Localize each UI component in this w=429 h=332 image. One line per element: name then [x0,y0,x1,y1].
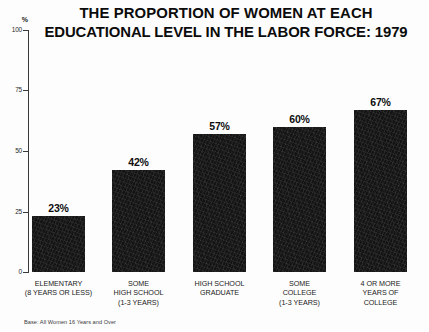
category-label-elementary: ELEMENTARY (8 YEARS OR LESS) [16,279,101,298]
plot-area: % 100 75 50 25 0 23% 42% 57% 60% 67% ELE… [0,0,429,332]
y-axis-label-75: 75 [2,86,22,93]
bar-elementary[interactable] [32,216,85,272]
category-label-4-or-more-college-line-3: COLLEGE [340,298,421,307]
bar-high-school-graduate[interactable] [193,134,246,272]
bar-value-elementary: 23% [32,203,85,214]
category-label-some-high-school-line-3: (1-3 YEARS) [98,298,179,307]
category-label-elementary-line-2: (8 YEARS OR LESS) [16,288,101,297]
category-label-high-school-graduate-line-2: GRADUATE [179,288,260,297]
category-label-4-or-more-college: 4 OR MORE YEARS OF COLLEGE [340,279,421,307]
category-label-some-college: SOME COLLEGE (1-3 YEARS) [259,279,340,307]
bar-4-or-more-college[interactable] [354,110,407,272]
bar-value-high-school-graduate: 57% [193,121,246,132]
category-label-some-college-line-2: COLLEGE [259,288,340,297]
category-label-some-college-line-1: SOME [259,279,340,288]
category-label-some-college-line-3: (1-3 YEARS) [259,298,340,307]
y-axis-tick-50 [23,151,29,152]
y-axis-label-100: 100 [2,26,22,33]
y-axis-label-25: 25 [2,208,22,215]
y-axis-label-50: 50 [2,147,22,154]
bar-value-some-high-school: 42% [112,157,165,168]
y-axis-tick-0 [23,272,29,273]
category-label-elementary-line-1: ELEMENTARY [16,279,101,288]
category-label-some-high-school-line-2: HIGH SCHOOL [98,288,179,297]
bar-some-high-school[interactable] [112,170,165,272]
bar-some-college[interactable] [273,127,326,272]
chart-page: THE PROPORTION OF WOMEN AT EACH EDUCATIO… [0,0,429,332]
y-axis-unit-label: % [14,16,28,23]
category-label-4-or-more-college-line-1: 4 OR MORE [340,279,421,288]
bar-value-4-or-more-college: 67% [354,97,407,108]
chart-footnote: Base: All Women 16 Years and Over [24,319,116,326]
category-label-some-high-school: SOME HIGH SCHOOL (1-3 YEARS) [98,279,179,307]
category-label-some-high-school-line-1: SOME [98,279,179,288]
y-axis-label-0: 0 [2,268,22,275]
y-axis-tick-25 [23,212,29,213]
category-label-high-school-graduate: HIGH SCHOOL GRADUATE [179,279,260,298]
bar-value-some-college: 60% [273,114,326,125]
y-axis-tick-75 [23,90,29,91]
category-label-4-or-more-college-line-2: YEARS OF [340,288,421,297]
y-axis-tick-100 [23,30,29,31]
category-label-high-school-graduate-line-1: HIGH SCHOOL [179,279,260,288]
